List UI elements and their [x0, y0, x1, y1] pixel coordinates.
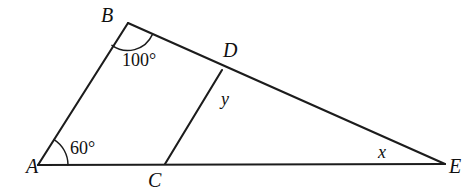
segment-cd	[165, 70, 222, 164]
vertex-label-e: E	[449, 156, 461, 176]
geometry-canvas	[0, 0, 469, 195]
vertex-label-c: C	[148, 170, 161, 190]
angle-label-x: x	[378, 143, 386, 161]
geometry-diagram: A B C D E 60° 100° y x	[0, 0, 469, 195]
segment-ae	[38, 164, 445, 165]
angle-label-b: 100°	[122, 51, 156, 69]
segment-be	[128, 23, 445, 164]
vertex-label-b: B	[101, 5, 113, 25]
vertex-label-a: A	[26, 156, 38, 176]
segment-label-y: y	[221, 90, 229, 108]
angle-arc-a	[54, 140, 68, 165]
vertex-label-d: D	[223, 40, 237, 60]
angle-label-a: 60°	[70, 139, 95, 157]
